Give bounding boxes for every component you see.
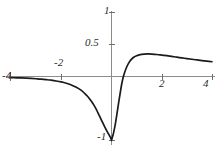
x-axis-tick-label-pos2: 2 — [159, 78, 165, 89]
y-axis-tick-label-half: 0.5 — [85, 37, 99, 48]
x-axis-tick-label-neg2: -2 — [54, 57, 63, 68]
x-axis-tick-label-neg4: -4 — [2, 70, 11, 81]
plot-canvas — [0, 0, 219, 145]
chart-figure: -4 -2 2 4 1 0.5 -1 — [0, 0, 219, 145]
x-axis-tick-label-pos4: 4 — [203, 78, 209, 89]
y-axis-tick-label-one: 1 — [104, 5, 110, 16]
y-axis-tick-label-neg-one: -1 — [97, 131, 106, 142]
